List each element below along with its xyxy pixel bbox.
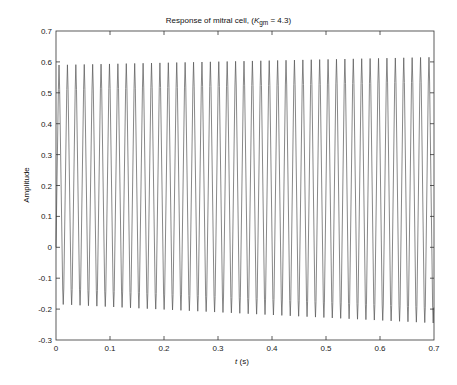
signal-line <box>56 57 434 323</box>
x-tick-label: 0.1 <box>104 344 116 353</box>
x-tick-label: 0.6 <box>374 344 386 353</box>
y-axis-label: Amplitude <box>22 167 31 203</box>
y-tick-label: -0.1 <box>38 274 52 283</box>
y-tick-label: 0.5 <box>41 89 53 98</box>
plot-area: 00.10.20.30.40.50.60.7 -0.3-0.2-0.100.10… <box>0 0 457 385</box>
y-tick-label: 0.2 <box>41 182 53 191</box>
x-tick-label: 0.2 <box>158 344 170 353</box>
signal-path <box>56 57 434 323</box>
y-tick-label: -0.3 <box>38 336 52 345</box>
chart-title: Response of mitral cell, (Kgm = 4.3) <box>0 16 457 26</box>
x-axis-label: t (s) <box>235 357 249 366</box>
x-tick-label: 0.3 <box>212 344 224 353</box>
y-tick-label: -0.2 <box>38 305 52 314</box>
x-tick-label: 0.7 <box>428 344 440 353</box>
x-tick-label: 0.5 <box>320 344 332 353</box>
y-tick-label: 0.7 <box>41 27 53 36</box>
axes-box <box>56 31 434 340</box>
figure: Response of mitral cell, (Kgm = 4.3) 00.… <box>0 0 457 385</box>
x-tick-label: 0 <box>54 344 59 353</box>
y-tick-label: 0 <box>48 243 53 252</box>
y-tick-label: 0.1 <box>41 212 53 221</box>
y-tick-label: 0.6 <box>41 58 53 67</box>
x-tick-label: 0.4 <box>266 344 278 353</box>
y-tick-label: 0.3 <box>41 151 53 160</box>
y-tick-label: 0.4 <box>41 120 53 129</box>
